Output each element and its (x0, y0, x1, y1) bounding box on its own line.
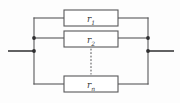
junction-dot-left-terminal (32, 49, 36, 53)
junction-dot-left-branch2 (32, 36, 36, 40)
parallel-resistor-diagram: r1 r2 rn (0, 0, 180, 103)
junction-dot-right-terminal (146, 49, 150, 53)
junction-dot-right-branch2 (146, 36, 150, 40)
resistor-label-2-subscript: 2 (90, 40, 95, 47)
resistor-label-n-subscript: n (91, 85, 95, 92)
circuit-schematic: r1 r2 rn (0, 0, 180, 103)
resistor-label-1-subscript: 1 (91, 19, 95, 26)
